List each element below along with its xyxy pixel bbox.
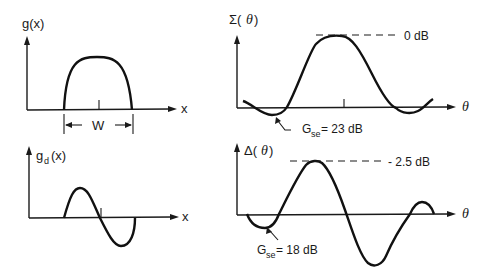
diff-sidelobe-value: = 18 dB: [276, 243, 318, 257]
diff-y-arrow-icon: [234, 143, 240, 152]
diff-sidelobe-G: G: [257, 243, 266, 257]
sum-x-label: θ: [462, 99, 469, 114]
gd-y-label-tail: (x): [51, 148, 66, 163]
sum-x-axis: [237, 107, 448, 108]
g-aperture-curve: [64, 57, 132, 110]
panel-g-aperture: g(x) x W: [22, 16, 188, 134]
g-y-label: g(x): [22, 16, 44, 31]
sum-y-label-theta: θ: [246, 12, 253, 27]
sum-sidelobe-leader: [278, 121, 291, 130]
diff-x-label: θ: [462, 206, 469, 221]
diff-sidelobe-sub: se: [266, 250, 276, 260]
gd-y-label-main: g: [36, 148, 43, 163]
w-left-arrow-icon: [65, 122, 72, 128]
gd-x-arrow-icon: [170, 214, 179, 220]
sum-sidelobe-sub: se: [311, 129, 321, 139]
g-x-arrow-icon: [168, 106, 177, 112]
sum-sidelobe-value: = 23 dB: [321, 122, 363, 136]
antenna-pattern-diagram: g(x) x W g d (x) x Σ( θ ) θ: [0, 0, 490, 279]
gd-y-label-sub: d: [44, 156, 49, 166]
w-right-arrow-icon: [125, 122, 132, 128]
diff-peak-label: - 2.5 dB: [388, 155, 430, 169]
diff-sidelobe-leader: [270, 231, 278, 240]
gd-y-arrow-icon: [26, 146, 32, 155]
sum-y-arrow-icon: [234, 35, 240, 44]
sum-y-label-close: ): [254, 12, 258, 27]
sum-y-label: Σ(: [229, 12, 242, 27]
diff-y-label-theta: θ: [261, 143, 268, 158]
g-x-label: x: [181, 101, 188, 116]
gd-x-label: x: [182, 209, 189, 224]
w-label: W: [92, 118, 105, 133]
sum-sidelobe-G: G: [302, 122, 311, 136]
sum-x-arrow-icon: [447, 104, 456, 110]
g-y-arrow-icon: [24, 36, 30, 45]
sum-peak-label: 0 dB: [404, 29, 429, 43]
diff-y-label: Δ(: [244, 143, 258, 158]
panel-difference-pattern: Δ( θ ) θ - 2.5 dB G se = 18 dB: [234, 143, 469, 265]
panel-gd-aperture: g d (x) x: [26, 146, 189, 246]
diff-y-label-close: ): [269, 143, 273, 158]
sum-pattern-curve: [243, 36, 433, 115]
panel-sum-pattern: Σ( θ ) θ 0 dB G se = 23 dB: [229, 12, 469, 139]
diff-x-axis: [237, 214, 448, 215]
diff-x-arrow-icon: [447, 211, 456, 217]
